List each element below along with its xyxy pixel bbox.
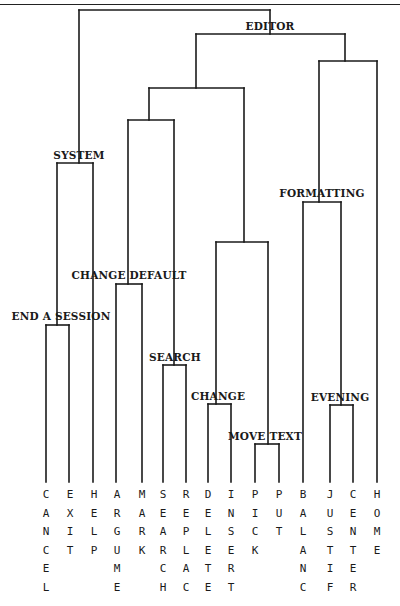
leaf-label-justif: JUSTIF xyxy=(327,488,334,594)
dendrogram-canvas: EDITORSYSTEMEND A SESSIONCHANGE DEFAULTS… xyxy=(0,0,400,606)
cluster-labels: EDITORSYSTEMEND A SESSIONCHANGE DEFAULTS… xyxy=(12,20,370,442)
leaf-label-argume: ARGUME xyxy=(114,488,121,594)
leaf-label-help: HELP xyxy=(91,488,98,557)
leaf-labels: CANCELEXITHELPARGUMEMARKSEARCHREPLACDELE… xyxy=(43,488,381,594)
leaf-label-cancel: CANCEL xyxy=(43,488,50,594)
dendrogram-tree: EDITORSYSTEMEND A SESSIONCHANGE DEFAULTS… xyxy=(0,0,400,606)
leaf-label-pick: PICK xyxy=(252,488,259,557)
leaf-label-search: SEARCH xyxy=(160,488,167,594)
leaf-label-delete: DELETE xyxy=(205,488,212,594)
cluster-label-editor: EDITOR xyxy=(246,20,295,32)
cluster-label-formatting: FORMATTING xyxy=(279,187,364,199)
leaf-label-home: HOME xyxy=(374,488,381,557)
leaf-label-insert: INSERT xyxy=(228,488,235,594)
leaf-label-put: PUT xyxy=(276,488,283,538)
leaf-label-mark: MARK xyxy=(139,488,146,557)
cluster-label-end_a_session: END A SESSION xyxy=(12,310,111,322)
cluster-label-change_default: CHANGE DEFAULT xyxy=(71,269,186,281)
cluster-label-search: SEARCH xyxy=(149,351,201,363)
leaf-label-center: CENTER xyxy=(350,488,357,594)
cluster-label-change: CHANGE xyxy=(191,390,245,402)
leaf-label-balanc: BALANC xyxy=(300,488,307,594)
top-rule-divider xyxy=(0,4,400,5)
tree-links xyxy=(46,10,377,482)
cluster-label-move_text: MOVE TEXT xyxy=(228,430,302,442)
cluster-label-evening: EVENING xyxy=(311,391,370,403)
leaf-label-replac: REPLAC xyxy=(183,488,190,594)
cluster-label-system: SYSTEM xyxy=(53,149,104,161)
leaf-label-exit: EXIT xyxy=(67,488,74,557)
